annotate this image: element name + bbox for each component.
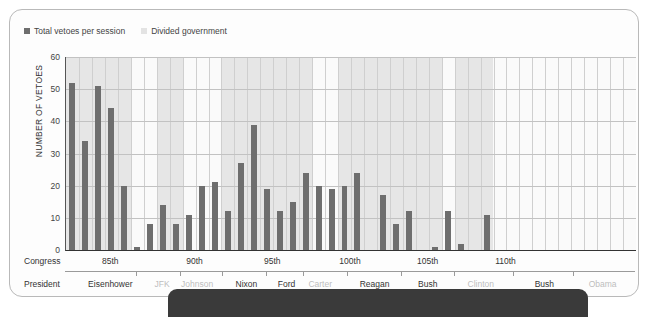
bar-94th <box>212 182 218 250</box>
bar-90th <box>160 205 166 250</box>
y-tick-20: 20 <box>36 181 60 191</box>
bar-95th <box>225 211 231 250</box>
y-tick-50: 50 <box>36 84 60 94</box>
congress-tick-110th: 110th <box>495 253 516 269</box>
congress-axis-row: Congress 85th90th95th100th105th110th <box>10 253 640 269</box>
president-label-obama-10: Obama <box>589 276 617 292</box>
legend-label-divided-government: Divided government <box>151 27 227 36</box>
bottom-decorative-strip <box>168 289 588 317</box>
bar-105th <box>354 173 360 250</box>
congress-tick-100th: 100th <box>339 253 360 269</box>
bar-101st <box>303 173 309 250</box>
bar-103rd <box>329 189 335 250</box>
legend-swatch-icon-divided-government <box>141 28 147 34</box>
bar-102nd <box>316 186 322 250</box>
bar-series-total-vetoes <box>66 57 636 250</box>
president-label-jfk-1: JFK <box>155 276 170 292</box>
bar-91st <box>173 224 179 250</box>
bar-109th <box>406 211 412 250</box>
bar-93rd <box>199 186 205 250</box>
bar-32 <box>484 215 490 250</box>
bar-96th <box>238 163 244 250</box>
bar-30 <box>458 244 464 250</box>
bar-89th <box>147 224 153 250</box>
bar-104th <box>342 186 348 250</box>
bar-97th <box>251 125 257 250</box>
bar-100th <box>290 202 296 250</box>
legend-swatch-icon-total-vetoes <box>24 28 30 34</box>
president-label-eisenhower-0: Eisenhower <box>88 276 132 292</box>
bar-92nd <box>186 215 192 250</box>
bar-87th <box>121 186 127 250</box>
congress-tick-105th: 105th <box>417 253 438 269</box>
bar-84th <box>82 141 88 250</box>
chart-card: Total vetoes per session Divided governm… <box>9 9 639 297</box>
congress-tick-95th: 95th <box>264 253 281 269</box>
legend-label-total-vetoes: Total vetoes per session <box>34 27 125 36</box>
bar-111th <box>432 247 438 250</box>
bar-86th <box>108 108 114 250</box>
bar-99th <box>277 211 283 250</box>
bar-29 <box>445 211 451 250</box>
y-axis-ticks: 0102030405060 <box>36 57 60 250</box>
y-tick-10: 10 <box>36 213 60 223</box>
congress-row-label: Congress <box>24 253 60 269</box>
legend-item-total-vetoes: Total vetoes per session <box>24 27 125 36</box>
congress-tick-90th: 90th <box>186 253 203 269</box>
bar-88th <box>134 247 140 250</box>
chart-legend: Total vetoes per session Divided governm… <box>24 27 227 36</box>
bar-83rd <box>69 83 75 250</box>
y-tick-60: 60 <box>36 52 60 62</box>
bar-108th <box>393 224 399 250</box>
bar-98th <box>264 189 270 250</box>
president-row-label: President <box>24 276 60 292</box>
bar-85th <box>95 86 101 250</box>
y-tick-30: 30 <box>36 149 60 159</box>
congress-tick-85th: 85th <box>102 253 119 269</box>
bar-107th <box>380 195 386 250</box>
legend-item-divided-government: Divided government <box>141 27 227 36</box>
y-tick-40: 40 <box>36 116 60 126</box>
plot-area <box>65 57 636 251</box>
